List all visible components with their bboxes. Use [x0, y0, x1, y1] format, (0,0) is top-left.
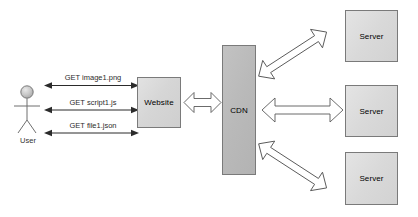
diagram-canvas: User GET image1.png GET script1.js GET f…	[0, 0, 418, 217]
edge-label-request-script: GET script1.js	[47, 98, 139, 107]
node-website[interactable]: Website	[137, 77, 181, 128]
node-label-website: Website	[144, 98, 173, 107]
request-arrow-image1	[44, 82, 139, 89]
node-label-server-3: Server	[359, 174, 383, 183]
node-server-2[interactable]: Server	[345, 85, 398, 137]
node-label-server-2: Server	[359, 107, 383, 116]
request-arrow-script1	[44, 107, 139, 114]
block-arrow-cdn-server3	[253, 135, 333, 198]
edge-label-request-file: GET file1.json	[47, 121, 139, 130]
block-arrow-cdn-server2	[262, 98, 343, 122]
node-cdn[interactable]: CDN	[222, 45, 256, 175]
node-label-cdn: CDN	[230, 106, 248, 115]
node-server-1[interactable]: Server	[345, 10, 398, 62]
request-arrow-file1	[44, 130, 139, 137]
node-label-server-1: Server	[359, 32, 383, 41]
edge-label-request-image: GET image1.png	[47, 73, 139, 82]
node-server-3[interactable]: Server	[345, 152, 398, 205]
block-arrow-cdn-server1	[253, 23, 333, 86]
block-arrow-website-cdn	[184, 93, 221, 113]
stick-figure-icon	[14, 86, 40, 133]
